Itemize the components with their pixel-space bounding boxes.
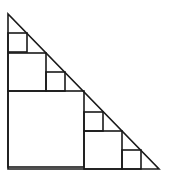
inscribed-square-level-3 [84, 112, 103, 131]
inscribed-square-level-2 [8, 53, 46, 91]
inscribed-square-level-2 [84, 131, 122, 169]
inscribed-square-level-1 [8, 91, 84, 167]
inscribed-square-level-3 [8, 33, 27, 52]
inscribed-square-level-3 [122, 150, 141, 169]
inscribed-square-level-3 [46, 72, 65, 91]
triangle-square-diagram [0, 0, 172, 183]
